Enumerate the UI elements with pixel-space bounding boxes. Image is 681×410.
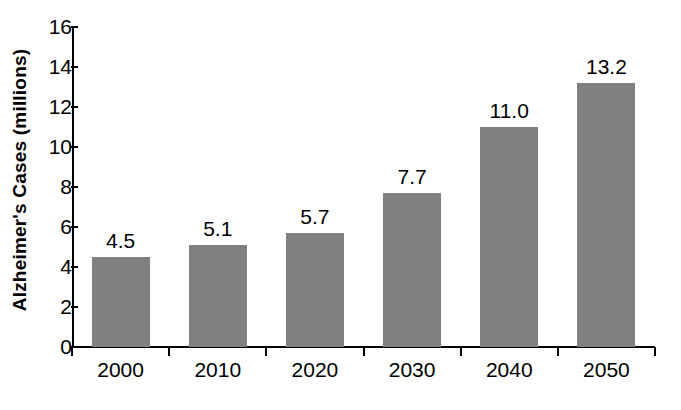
bar-2010 [189,245,247,347]
x-axis-tick-label-2010: 2010 [169,358,266,382]
x-axis-tick-mark [71,347,73,356]
y-axis-tick-label: 0 [38,336,72,357]
bar-2030 [383,193,441,347]
bar-value-label-2000: 4.5 [72,230,169,251]
y-axis-tick-label: 8 [38,176,72,197]
bar-chart: Alzheimer's Cases (millions) 02468101214… [0,0,681,410]
x-axis-tick-label-2040: 2040 [461,358,558,382]
y-axis-tick-label: 6 [38,216,72,237]
x-axis-tick-mark [460,347,462,356]
y-axis-tick-label: 12 [38,96,72,117]
y-axis-tick-label: 14 [38,56,72,77]
x-axis-tick-mark [557,347,559,356]
x-axis-tick-mark [168,347,170,356]
bar-value-label-2020: 5.7 [266,206,363,227]
bar-2000 [92,257,150,347]
x-axis-tick-mark [363,347,365,356]
x-axis-tick-label-2020: 2020 [266,358,363,382]
x-axis-tick-label-2000: 2000 [72,358,169,382]
x-axis-tick-label-2030: 2030 [364,358,461,382]
bar-2020 [286,233,344,347]
y-axis-tick-label: 16 [38,16,72,37]
y-axis-ticks: 0246810121416 [30,0,72,410]
x-axis-tick-mark [265,347,267,356]
plot-area: 4.55.15.77.711.013.2 [72,27,655,347]
bar-2040 [480,127,538,347]
y-axis-tick-label: 10 [38,136,72,157]
bar-value-label-2040: 11.0 [461,100,558,121]
y-axis-tick-label: 4 [38,256,72,277]
bar-value-label-2010: 5.1 [169,218,266,239]
y-axis-tick-label: 2 [38,296,72,317]
x-axis-tick-label-2050: 2050 [558,358,655,382]
bar-value-label-2030: 7.7 [364,166,461,187]
bar-2050 [577,83,635,347]
y-axis-title-text: Alzheimer's Cases (millions) [9,49,31,311]
bar-value-label-2050: 13.2 [558,56,655,77]
x-axis-tick-mark [654,347,656,356]
